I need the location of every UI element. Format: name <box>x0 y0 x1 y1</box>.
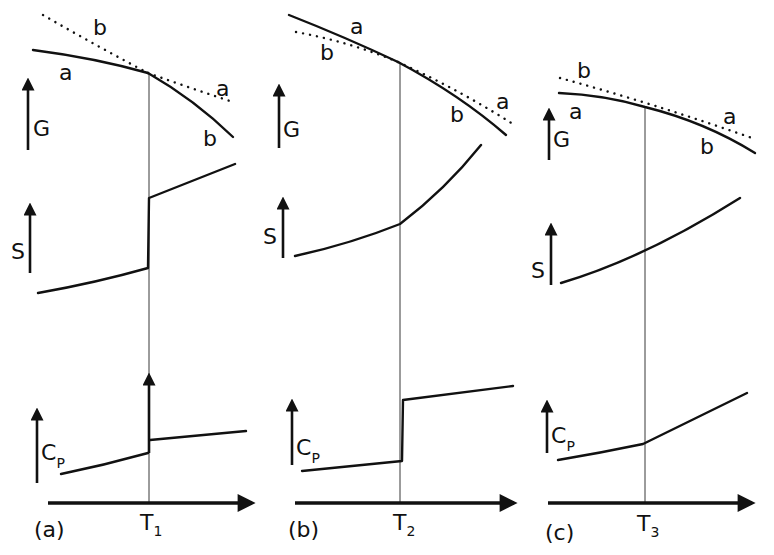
curve-label-b: b <box>203 126 217 151</box>
curve-label-b: b <box>700 134 714 159</box>
s-axis-label: S <box>11 239 25 264</box>
curve-label-b: b <box>320 40 334 65</box>
s-curve <box>295 145 481 256</box>
g-axis-label: G <box>553 127 570 152</box>
panel-a: G b a a b S CP (a) T1 <box>11 15 252 542</box>
panel-label: (b) <box>288 517 319 542</box>
curve-label-b: b <box>93 15 107 40</box>
cp-axis-label: CP <box>296 435 320 466</box>
curve-label-a: a <box>723 104 736 129</box>
s-plot-a: S <box>11 164 235 293</box>
curve-label-b: b <box>450 102 464 127</box>
phase-transition-figure: G b a a b S CP (a) T1 <box>0 0 774 555</box>
panel-b: G a b a b S CP (b) T2 <box>263 14 516 542</box>
curve-label-a: a <box>350 14 363 39</box>
curve-label-a: a <box>216 76 229 101</box>
cp-axis-label: CP <box>551 423 575 454</box>
cp-curve <box>558 393 747 460</box>
g-axis-label: G <box>283 117 300 142</box>
s-curve <box>38 164 235 293</box>
curve-label-b: b <box>577 58 591 83</box>
g-curve-a-stable <box>33 50 148 73</box>
s-plot-c: S <box>531 198 740 285</box>
curve-label-a: a <box>569 99 582 124</box>
curve-label-a: a <box>496 89 509 114</box>
g-curve-a-stable <box>289 15 398 62</box>
panel-c: G b a a b S CP (c) T3 <box>531 58 755 545</box>
panel-label: (c) <box>545 520 574 545</box>
s-axis-label: S <box>263 224 277 249</box>
s-curve <box>561 198 740 283</box>
cp-axis-label: CP <box>41 440 65 471</box>
transition-temp-label: T1 <box>139 510 162 539</box>
s-plot-b: S <box>263 145 481 258</box>
g-curve-b-metastable <box>296 32 398 62</box>
g-plot-c: G b a a b <box>549 58 755 160</box>
cp-curve-high <box>150 431 246 440</box>
cp-curve <box>302 386 513 471</box>
panel-label: (a) <box>34 517 65 542</box>
s-axis-label: S <box>531 258 545 283</box>
transition-temp-label: T2 <box>392 510 415 539</box>
g-axis-label: G <box>33 116 50 141</box>
transition-temp-label: T3 <box>636 511 659 540</box>
cp-curve-low <box>61 453 148 474</box>
cp-plot-a: CP <box>37 379 246 483</box>
g-plot-a: G b a a b <box>28 15 233 151</box>
g-plot-b: G a b a b <box>279 14 516 148</box>
curve-label-a: a <box>59 60 72 85</box>
cp-plot-b: CP <box>292 386 513 471</box>
cp-plot-c: CP <box>547 393 747 460</box>
